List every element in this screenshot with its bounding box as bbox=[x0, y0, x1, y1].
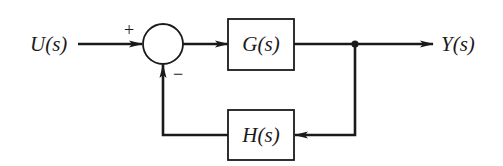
feedback-block: H(s) bbox=[228, 110, 294, 160]
summing-junction bbox=[143, 24, 183, 64]
feedback-path-to-h bbox=[295, 44, 355, 135]
forward-block-label: G(s) bbox=[242, 32, 279, 56]
input-label: U(s) bbox=[30, 32, 67, 56]
forward-block: G(s) bbox=[228, 19, 294, 70]
feedback-block-label: H(s) bbox=[241, 123, 279, 147]
block-diagram: U(s) + − G(s) Y(s) H(s) bbox=[0, 0, 503, 166]
output-label: Y(s) bbox=[441, 32, 475, 56]
minus-sign: − bbox=[173, 64, 183, 84]
plus-sign: + bbox=[124, 20, 134, 40]
